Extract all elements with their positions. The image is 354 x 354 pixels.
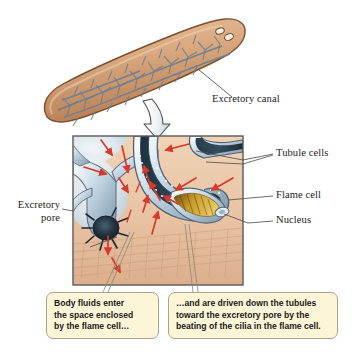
callout-driven-down: …and are driven down the tubules toward …: [168, 292, 338, 339]
callout-right-line-1: …and are driven down the tubules: [176, 298, 331, 310]
callout-body-fluids: Body fluids enter the space enclosed by …: [46, 292, 159, 339]
inset-detail-art: [64, 136, 243, 285]
label-excretory-pore-line2: pore: [0, 212, 60, 225]
callout-left-line-2: the space enclosed: [54, 310, 152, 322]
label-excretory-canal: Excretory canal: [212, 93, 280, 106]
callout-right-line-3: beating of the cilia in the flame cell.: [176, 321, 331, 333]
callout-left-line-1: Body fluids enter: [54, 298, 152, 310]
callout-right-line-2: toward the excretory pore by the: [176, 310, 331, 322]
magnify-pointer-arrow: [143, 99, 170, 139]
label-excretory-pore-line1: Excretory: [0, 199, 60, 212]
planarian-body: [44, 19, 245, 126]
callout-left-line-3: by the flame cell…: [54, 321, 152, 333]
label-nucleus: Nucleus: [276, 214, 311, 227]
label-flame-cell: Flame cell: [276, 189, 321, 202]
label-tubule-cells: Tubule cells: [276, 147, 328, 160]
flatworm-excretory-figure: Excretory canal Tubule cells Flame cell …: [0, 0, 354, 354]
